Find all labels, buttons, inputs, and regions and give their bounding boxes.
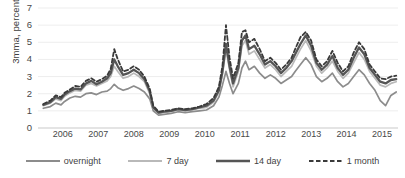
- legend-label-14-day: 14 day: [254, 157, 281, 166]
- x-tick-2011: 2011: [220, 130, 260, 139]
- x-tick-2007: 2007: [78, 130, 118, 139]
- x-tick-2014: 2014: [327, 130, 367, 139]
- y-tick-5: 5: [18, 37, 32, 47]
- chart-legend: overnight7 day14 day1 month: [0, 152, 405, 170]
- x-tick-2015: 2015: [362, 130, 402, 139]
- x-tick-2010: 2010: [185, 130, 225, 139]
- y-tick-4: 4: [18, 54, 32, 64]
- series-lines: [43, 25, 396, 115]
- legend-swatch-7-day: [128, 157, 162, 165]
- x-axis-tick-labels: 2006200720082009201020112012201320142015: [0, 129, 405, 145]
- x-tick-2009: 2009: [149, 130, 189, 139]
- y-tick-7: 7: [18, 3, 32, 13]
- x-tick-2006: 2006: [43, 130, 83, 139]
- y-tick-2: 2: [18, 89, 32, 99]
- legend-label-1-month: 1 month: [347, 157, 380, 166]
- y-tick-3: 3: [18, 72, 32, 82]
- line-chart: 3mma, percent 01234567 20062007200820092…: [0, 0, 405, 178]
- x-tick-2008: 2008: [114, 130, 154, 139]
- plot-area: [38, 8, 398, 128]
- legend-label-overnight: overnight: [64, 157, 101, 166]
- legend-item-overnight[interactable]: overnight: [26, 157, 101, 166]
- legend-swatch-overnight: [26, 157, 60, 165]
- y-tick-1: 1: [18, 106, 32, 116]
- legend-swatch-14-day: [216, 157, 250, 165]
- x-tick-2013: 2013: [291, 130, 331, 139]
- legend-item-7-day[interactable]: 7 day: [128, 157, 188, 166]
- series-line-1-month: [43, 25, 396, 112]
- gridlines: [38, 8, 398, 128]
- plot-svg: [38, 8, 398, 128]
- series-line-14-day: [43, 35, 396, 112]
- legend-label-7-day: 7 day: [166, 157, 188, 166]
- x-tick-2012: 2012: [256, 130, 296, 139]
- legend-item-14-day[interactable]: 14 day: [216, 157, 281, 166]
- y-tick-6: 6: [18, 20, 32, 30]
- legend-swatch-1-month: [309, 157, 343, 165]
- legend-item-1-month[interactable]: 1 month: [309, 157, 380, 166]
